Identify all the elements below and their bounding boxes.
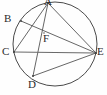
chord-be [21,21,96,53]
point-label-f: F [43,33,49,44]
point-label-b: B [4,13,11,24]
circumscribed-circle [13,2,97,86]
vertex-dot-d [32,75,34,77]
point-label-d: D [28,79,36,90]
vertex-dot-b [20,20,22,22]
chord-de [33,53,96,76]
chord-ae [48,3,96,53]
figure-canvas [0,0,107,95]
vertex-dot-c [13,51,15,53]
point-label-e: E [97,46,104,57]
point-label-a: A [44,0,52,7]
chord-ce [14,52,96,53]
geometry-figure: A B C D E F [0,0,107,95]
point-label-c: C [2,46,9,57]
